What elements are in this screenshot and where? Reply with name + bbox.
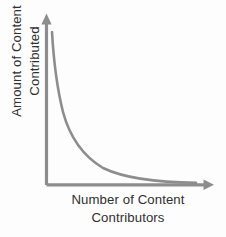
- y-axis-label-line-1: Amount of Content: [8, 0, 26, 135]
- arrow-right-icon: [204, 180, 215, 190]
- content-contribution-curve: [52, 32, 196, 183]
- chart-figure: Number of Content Contributors Amount of…: [0, 0, 226, 237]
- y-axis-label: Amount of Content Contributed: [8, 0, 44, 135]
- x-axis-label: Number of Content Contributors: [40, 191, 216, 226]
- x-axis-label-line-1: Number of Content: [40, 191, 216, 209]
- y-axis-label-line-2: Contributed: [26, 0, 44, 135]
- x-axis-label-line-2: Contributors: [40, 209, 216, 227]
